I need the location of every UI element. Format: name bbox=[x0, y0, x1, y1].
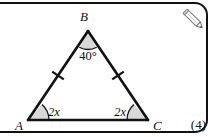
angle-label-c: 2x bbox=[114, 105, 126, 119]
tick-mark-bc bbox=[112, 72, 124, 80]
angle-label-a: 2x bbox=[48, 105, 60, 119]
question-card: B A C 40° 2x 2x (4) bbox=[0, 0, 214, 137]
vertex-label-a: A bbox=[14, 118, 23, 133]
tick-mark-ab bbox=[52, 72, 64, 80]
pencil-icon bbox=[181, 6, 207, 34]
vertex-label-c: C bbox=[153, 118, 162, 133]
vertex-label-b: B bbox=[80, 9, 88, 24]
marks-label: (4) bbox=[191, 118, 206, 131]
angle-label-b: 40° bbox=[79, 49, 97, 63]
